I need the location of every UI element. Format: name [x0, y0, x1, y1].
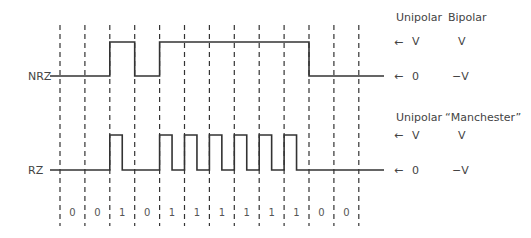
rz-label: RZ — [28, 164, 44, 177]
bit-value: 1 — [119, 207, 125, 218]
bit-value: 1 — [268, 207, 274, 218]
arrow-left-icon: ← — [394, 129, 403, 142]
line-coding-diagram: 001011111100 NRZ RZ Unipolar Bipolar ← V… — [0, 0, 531, 238]
rz-high-unipolar: V — [412, 129, 420, 142]
rz-low-unipolar: 0 — [412, 164, 419, 177]
bit-value: 1 — [244, 207, 250, 218]
bit-value: 0 — [94, 207, 100, 218]
rz-high-manchester: V — [458, 129, 466, 142]
rz-low-manchester: −V — [452, 164, 469, 177]
nrz-high-unipolar: V — [412, 35, 420, 48]
bit-value: 1 — [293, 207, 299, 218]
bit-value: 0 — [144, 207, 150, 218]
nrz-unipolar-header: Unipolar — [396, 11, 443, 24]
rz-manchester-header: “Manchester” — [445, 111, 521, 124]
arrow-left-icon: ← — [394, 36, 403, 49]
bit-value: 0 — [69, 207, 75, 218]
arrow-left-icon: ← — [394, 164, 403, 177]
nrz-bipolar-header: Bipolar — [448, 11, 487, 24]
bit-value: 1 — [219, 207, 225, 218]
bit-value: 1 — [194, 207, 200, 218]
nrz-high-bipolar: V — [458, 35, 466, 48]
bit-value: 0 — [343, 207, 349, 218]
nrz-low-bipolar: −V — [452, 70, 469, 83]
arrow-left-icon: ← — [394, 70, 403, 83]
bit-value: 0 — [318, 207, 324, 218]
bit-value: 1 — [169, 207, 175, 218]
nrz-low-unipolar: 0 — [412, 70, 419, 83]
rz-unipolar-header: Unipolar — [396, 111, 443, 124]
bit-boundary-gridlines — [60, 25, 359, 226]
nrz-label: NRZ — [28, 70, 52, 83]
